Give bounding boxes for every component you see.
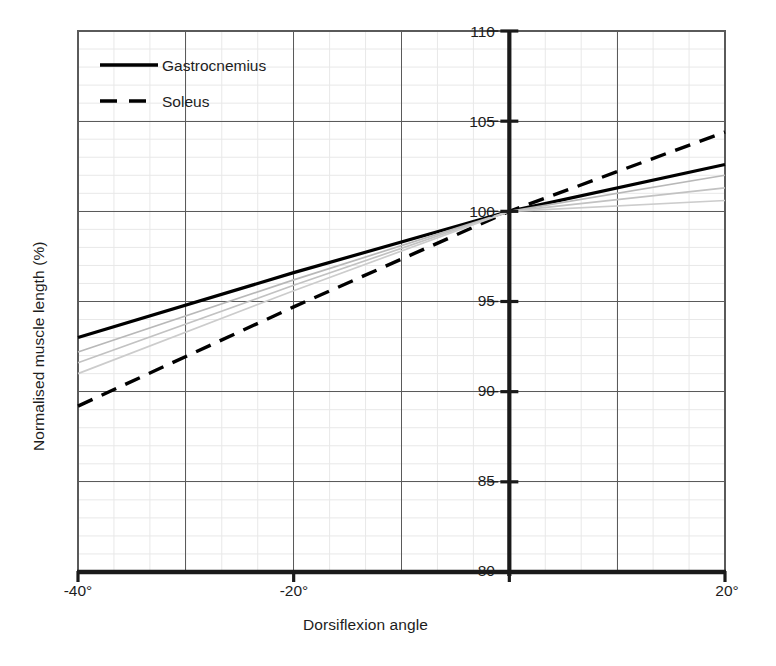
ytick-label-105: 105 — [435, 113, 495, 131]
ytick-label-110: 110 — [435, 23, 495, 41]
ytick-label-90: 90 — [435, 382, 495, 400]
xtick-label-20: 20° — [692, 582, 762, 600]
ytick-label-95: 95 — [435, 292, 495, 310]
xtick-label-minus20: -20° — [259, 582, 329, 600]
legend-label-gastrocnemius: Gastrocnemius — [162, 57, 266, 75]
chart-canvas — [0, 0, 776, 666]
legend-label-soleus: Soleus — [162, 93, 209, 111]
major-gridlines — [78, 31, 725, 572]
ytick-label-100: 100 — [435, 203, 495, 221]
legend-swatches — [100, 65, 158, 101]
xtick-label-minus40: -40° — [43, 582, 113, 600]
x-axis-title: Dorsiflexion angle — [0, 616, 776, 634]
y-axis-title: Normalised muscle length (%) — [30, 241, 48, 451]
ytick-label-80: 80 — [435, 562, 495, 580]
chart-figure: 110 105 100 95 90 85 80 -40° -20° 20° No… — [0, 0, 776, 666]
ytick-label-85: 85 — [435, 472, 495, 490]
